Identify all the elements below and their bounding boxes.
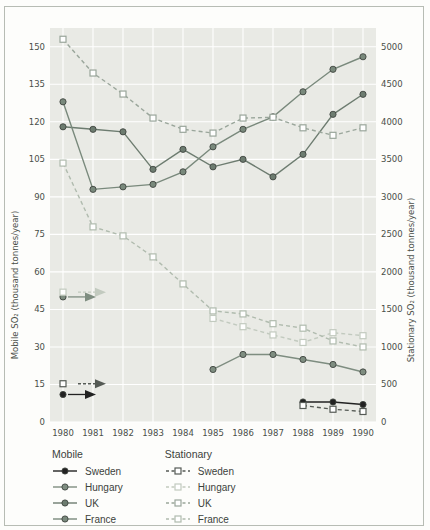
- legend-label: Sweden: [85, 466, 121, 477]
- legend-mobile-group: Mobile SwedenHungaryUKFrance: [52, 448, 123, 527]
- right-axis-tick-label: 5000: [381, 42, 403, 52]
- solid-line-marker-icon: [52, 498, 78, 508]
- right-axis-tick-label: 4500: [381, 79, 403, 89]
- point-mobile-france: [360, 54, 366, 60]
- right-axis-tick-label: 2500: [381, 229, 403, 239]
- right-axis-tick-label: 3500: [381, 154, 403, 164]
- point-stationary-france: [360, 344, 366, 350]
- legend-label: UK: [198, 498, 212, 509]
- point-stationary-sweden: [360, 408, 366, 414]
- x-axis-tick-label: 1990: [352, 428, 374, 438]
- point-stationary-hungary: [330, 330, 336, 336]
- legend-label: France: [85, 514, 116, 525]
- point-stationary-france: [240, 311, 246, 317]
- point-stationary-uk: [120, 91, 126, 97]
- right-axis-tick-label: 1500: [381, 304, 403, 314]
- legend-item-mobile-sweden: Sweden: [52, 463, 123, 479]
- chart-canvas: 0153045607590105120135150050010001500200…: [6, 12, 422, 446]
- point-mobile-uk: [60, 124, 66, 130]
- right-axis-tick-label: 0: [381, 417, 386, 427]
- point-stationary-sweden: [60, 381, 66, 387]
- point-mobile-france: [60, 99, 66, 105]
- x-axis-tick-label: 1982: [112, 428, 134, 438]
- legend-label: Sweden: [198, 466, 234, 477]
- left-axis-tick-label: 150: [29, 42, 45, 52]
- point-mobile-france: [90, 186, 96, 192]
- legend-label: UK: [85, 498, 99, 509]
- left-axis-tick-label: 15: [34, 379, 45, 389]
- legend-item-mobile-uk: UK: [52, 495, 123, 511]
- point-stationary-uk: [180, 126, 186, 132]
- point-stationary-uk: [360, 125, 366, 131]
- dashed-line-marker-icon: [165, 466, 191, 476]
- point-mobile-uk: [90, 126, 96, 132]
- dashed-line-marker-icon: [165, 498, 191, 508]
- right-axis-tick-label: 2000: [381, 267, 403, 277]
- legend-item-stationary-france: France: [165, 511, 236, 527]
- figure-card: 0153045607590105120135150050010001500200…: [0, 0, 430, 530]
- point-mobile-france: [150, 181, 156, 187]
- point-stationary-france: [210, 308, 216, 314]
- point-mobile-hungary: [210, 366, 216, 372]
- point-stationary-france: [150, 254, 156, 260]
- point-stationary-hungary: [270, 332, 276, 338]
- left-axis-tick-label: 60: [34, 267, 45, 277]
- solid-line-marker-icon: [52, 482, 78, 492]
- point-mobile-france: [330, 66, 336, 72]
- dashed-line-marker-icon: [165, 482, 191, 492]
- point-stationary-hungary: [360, 333, 366, 339]
- dashed-line-marker-icon: [165, 514, 191, 524]
- x-axis-tick-label: 1988: [292, 428, 314, 438]
- legend-stationary-group: Stationary SwedenHungaryUKFrance: [165, 448, 236, 527]
- point-mobile-sweden: [360, 401, 366, 407]
- point-mobile-uk: [240, 156, 246, 162]
- point-stationary-hungary: [300, 339, 306, 345]
- right-axis-tick-label: 1000: [381, 342, 403, 352]
- point-mobile-uk: [330, 111, 336, 117]
- point-mobile-france: [180, 169, 186, 175]
- legend-label: Hungary: [198, 482, 236, 493]
- x-axis-tick-label: 1980: [52, 428, 74, 438]
- legend-item-mobile-hungary: Hungary: [52, 479, 123, 495]
- point-mobile-uk: [360, 91, 366, 97]
- x-axis-tick-label: 1984: [172, 428, 194, 438]
- legend-stationary-items: SwedenHungaryUKFrance: [165, 463, 236, 527]
- point-stationary-france: [300, 325, 306, 331]
- x-axis-tick-label: 1985: [202, 428, 224, 438]
- point-stationary-france: [330, 338, 336, 344]
- point-stationary-uk: [330, 132, 336, 138]
- point-stationary-hungary: [60, 289, 66, 295]
- point-stationary-france: [270, 321, 276, 327]
- left-axis-tick-label: 30: [34, 342, 45, 352]
- point-mobile-sweden: [330, 399, 336, 405]
- point-mobile-france: [240, 126, 246, 132]
- point-mobile-uk: [180, 146, 186, 152]
- left-axis-title: Mobile SO₂ (thousand tonnes/year): [10, 211, 20, 360]
- point-mobile-sweden: [60, 391, 66, 397]
- x-axis-tick-label: 1983: [142, 428, 164, 438]
- legend-item-stationary-hungary: Hungary: [165, 479, 236, 495]
- legend-item-mobile-france: France: [52, 511, 123, 527]
- point-stationary-uk: [150, 115, 156, 121]
- point-stationary-hungary: [210, 315, 216, 321]
- point-stationary-france: [180, 281, 186, 287]
- legend-stationary-header: Stationary: [165, 448, 236, 460]
- legend-mobile-header: Mobile: [52, 448, 123, 460]
- point-mobile-hungary: [300, 356, 306, 362]
- point-mobile-uk: [210, 164, 216, 170]
- point-mobile-france: [120, 184, 126, 190]
- point-mobile-uk: [270, 174, 276, 180]
- point-stationary-uk: [60, 36, 66, 42]
- point-mobile-uk: [300, 151, 306, 157]
- point-mobile-hungary: [330, 361, 336, 367]
- point-stationary-sweden: [330, 406, 336, 412]
- right-axis-title: Stationary SO₂ (thousand tonnes/year): [406, 198, 416, 363]
- point-mobile-hungary: [240, 351, 246, 357]
- so2-emissions-chart: 0153045607590105120135150050010001500200…: [6, 12, 422, 446]
- solid-line-marker-icon: [52, 466, 78, 476]
- right-axis-tick-label: 500: [381, 379, 397, 389]
- point-stationary-uk: [300, 125, 306, 131]
- left-axis-tick-label: 45: [34, 304, 45, 314]
- right-axis-tick-label: 3000: [381, 192, 403, 202]
- left-axis-tick-label: 75: [34, 229, 45, 239]
